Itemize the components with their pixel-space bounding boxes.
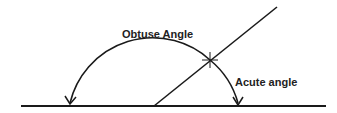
acute-angle-label: Acute angle (235, 76, 297, 88)
diagram-svg (0, 0, 337, 113)
acute-angle-arc (210, 60, 238, 103)
obtuse-angle-arc (70, 38, 210, 103)
angle-diagram: Obtuse Angle Acute angle (0, 0, 337, 113)
obtuse-angle-label: Obtuse Angle (122, 28, 193, 40)
ray (154, 7, 277, 106)
